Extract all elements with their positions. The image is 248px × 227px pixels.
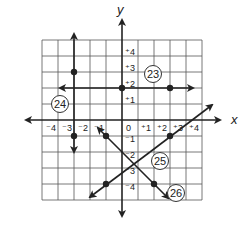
svg-text:⁻4: ⁻4: [125, 182, 135, 192]
svg-text:⁻4: ⁻4: [46, 123, 56, 133]
line-24: [71, 34, 77, 152]
svg-text:⁺4: ⁺4: [125, 47, 135, 57]
svg-text:⁻2: ⁻2: [125, 150, 135, 160]
svg-text:⁺2: ⁺2: [157, 123, 167, 133]
label-23: 23: [145, 66, 162, 83]
svg-text:⁺4: ⁺4: [189, 123, 199, 133]
label-24: 24: [52, 96, 69, 113]
svg-text:⁻2: ⁻2: [78, 123, 88, 133]
axes: [26, 20, 220, 216]
svg-text:25: 25: [154, 155, 166, 167]
svg-text:24: 24: [54, 98, 66, 110]
svg-text:⁺1: ⁺1: [141, 123, 151, 133]
svg-text:26: 26: [170, 187, 182, 199]
svg-text:⁻3: ⁻3: [62, 123, 72, 133]
svg-text:⁻1: ⁻1: [125, 134, 135, 144]
x-axis-label: x: [230, 112, 238, 127]
label-25: 25: [152, 153, 169, 170]
svg-text:0: 0: [126, 123, 131, 133]
svg-text:⁺3: ⁺3: [125, 63, 135, 73]
y-axis-label: y: [116, 2, 125, 17]
svg-text:⁺1: ⁺1: [125, 95, 135, 105]
svg-text:23: 23: [147, 68, 159, 80]
label-26: 26: [168, 185, 185, 202]
coordinate-plane: x y ⁻4 ⁻3 ⁻2 ⁻1 0 ⁺1 ⁺2 ⁺3 ⁺4 ⁺4 ⁺3 ⁺2 ⁺…: [0, 0, 248, 227]
